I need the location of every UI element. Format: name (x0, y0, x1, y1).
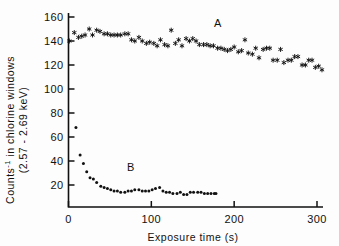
data-point (177, 37, 181, 42)
data-point (310, 58, 314, 63)
axis-ticks (69, 17, 318, 207)
y-tick-label: 160 (44, 11, 64, 23)
data-point (320, 67, 324, 72)
data-point (243, 37, 247, 42)
data-point (137, 188, 140, 191)
data-point (106, 187, 109, 190)
y-title-rest: in chlorine windows (4, 56, 16, 160)
data-point (296, 54, 300, 59)
data-point (179, 191, 182, 194)
data-point (254, 46, 258, 51)
data-point (79, 154, 82, 157)
data-point (268, 46, 272, 51)
scatter-plot: 204060801001201401600100200300 AB Counts… (0, 0, 339, 246)
data-point (300, 63, 304, 68)
data-point (147, 190, 150, 193)
data-point (126, 31, 130, 36)
data-point (169, 28, 173, 33)
data-point (161, 190, 164, 193)
data-point (133, 188, 136, 191)
data-point (286, 58, 290, 63)
x-tick-label: 200 (224, 213, 244, 225)
y-tick-label: 140 (44, 35, 64, 47)
data-point (85, 170, 88, 173)
y-title-main: Counts (4, 168, 16, 204)
x-axis-title: Exposure time (s) (148, 231, 239, 243)
data-point (102, 31, 106, 36)
data-point (113, 190, 116, 193)
data-point (250, 52, 254, 57)
figure-panel: 204060801001201401600100200300 AB Counts… (0, 0, 339, 246)
data-point (203, 192, 206, 195)
data-point (171, 192, 174, 195)
data-point (173, 41, 177, 46)
data-point (275, 58, 279, 63)
data-point (112, 33, 116, 38)
data-point (158, 186, 161, 189)
data-point (130, 190, 133, 193)
x-tick-label: 100 (142, 213, 162, 225)
series-annotation-B: B (127, 161, 134, 173)
data-point (158, 37, 162, 42)
data-point (282, 60, 286, 65)
data-point (154, 187, 157, 190)
data-point (278, 47, 282, 52)
y-tick-label: 60 (50, 131, 63, 143)
series-B (74, 126, 217, 196)
data-point (141, 190, 144, 193)
data-point (140, 39, 144, 44)
data-point (200, 191, 203, 194)
data-point (185, 193, 188, 196)
data-point (72, 30, 76, 35)
data-point (180, 43, 184, 48)
data-point (144, 190, 147, 193)
axis-tick-labels: 204060801001201401600100200300 (44, 11, 327, 225)
data-point (196, 191, 199, 194)
x-tick-label: 0 (65, 213, 72, 225)
y-tick-label: 40 (50, 155, 63, 167)
data-point (271, 58, 275, 63)
data-point (257, 55, 261, 60)
data-point (209, 192, 212, 195)
data-point (211, 43, 215, 48)
y-title-line2-text: (2.57 - 2.69 keV) (17, 87, 29, 174)
series-annotation-A: A (214, 17, 222, 29)
data-point (92, 178, 95, 181)
y-tick-label: 80 (50, 107, 63, 119)
data-point (127, 190, 130, 193)
data-point (201, 42, 205, 47)
data-point (292, 54, 296, 59)
data-point (123, 191, 126, 194)
data-series (67, 27, 324, 197)
data-point (168, 191, 171, 194)
y-axis-title-line2: (2.57 - 2.69 keV) (17, 87, 29, 174)
data-point (182, 193, 185, 196)
data-point (176, 192, 179, 195)
y-tick-label: 120 (44, 59, 64, 71)
data-point (192, 191, 195, 194)
data-point (103, 186, 106, 189)
data-point (90, 33, 94, 38)
data-point (307, 58, 311, 63)
data-point (123, 31, 127, 36)
data-point (89, 176, 92, 179)
data-point (82, 162, 85, 165)
series-A (67, 27, 324, 73)
data-point (246, 51, 250, 56)
data-point (303, 63, 307, 68)
data-point (151, 188, 154, 191)
y-axis-title: Counts-1 in chlorine windows (3, 56, 16, 204)
data-point (95, 181, 98, 184)
data-point (119, 191, 122, 194)
data-point (109, 188, 112, 191)
data-point (119, 33, 123, 38)
data-point (206, 192, 209, 195)
data-point (215, 46, 219, 51)
data-point (214, 192, 217, 195)
data-point (74, 126, 77, 129)
x-tick-label: 300 (307, 213, 327, 225)
svg-text:Counts-1 in chlorine windows: Counts-1 in chlorine windows (3, 56, 16, 204)
data-point (137, 35, 141, 40)
data-point (87, 27, 91, 32)
data-point (115, 33, 119, 38)
